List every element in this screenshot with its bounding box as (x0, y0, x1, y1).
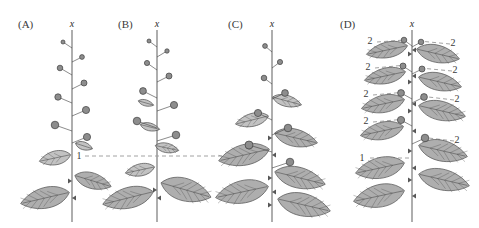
axillary-bud (133, 117, 141, 125)
annotation-label: 2 (453, 64, 458, 75)
botanical-figure: (A)x1(B)x(C)x(D)x222222221 (0, 0, 479, 228)
annotation-label: 1 (360, 152, 365, 163)
axillary-bud (83, 133, 90, 140)
axillary-bud (282, 90, 289, 97)
axillary-bud (51, 121, 59, 129)
axillary-bud (172, 131, 180, 139)
annotation-label: 2 (368, 35, 373, 46)
axillary-bud (144, 60, 149, 65)
panel-label-a: (A) (18, 18, 34, 31)
annotation-label: 2 (451, 37, 456, 48)
axillary-bud (401, 37, 407, 43)
axillary-bud (57, 65, 63, 71)
axillary-bud (277, 59, 282, 64)
axis-label-b: x (154, 18, 160, 29)
axillary-bud (398, 90, 405, 97)
axillary-bud (55, 94, 61, 100)
axillary-bud (418, 39, 424, 45)
axis-label-c: x (269, 18, 275, 29)
annotation-label: 2 (455, 93, 460, 104)
axillary-bud (147, 39, 151, 43)
panel-label-d: (D) (340, 18, 356, 31)
axillary-bud (82, 106, 89, 113)
annotation-label: 2 (364, 88, 369, 99)
axillary-bud (397, 116, 404, 123)
axillary-bud (61, 40, 65, 44)
axillary-bud (284, 124, 292, 132)
axillary-bud (254, 109, 261, 116)
annotation-label: 2 (364, 115, 369, 126)
panel-label-b: (B) (118, 18, 133, 31)
figure-canvas: (A)x1(B)x(C)x(D)x222222221 (0, 0, 479, 228)
axillary-bud (263, 44, 268, 49)
panel-label-c: (C) (228, 18, 243, 31)
axis-label-d: x (409, 18, 415, 29)
axillary-bud (421, 94, 428, 101)
axillary-bud (421, 134, 429, 142)
axillary-bud (170, 101, 177, 108)
axillary-bud (286, 158, 294, 166)
annotation-label: 1 (77, 150, 82, 161)
axillary-bud (166, 73, 172, 79)
axillary-bud (245, 141, 253, 149)
axillary-bud (165, 49, 169, 53)
axillary-bud (419, 66, 425, 72)
annotation-label: 2 (455, 134, 460, 145)
axillary-bud (80, 55, 85, 60)
axillary-bud (140, 88, 147, 95)
axis-label-a: x (69, 18, 75, 29)
axillary-bud (261, 75, 267, 81)
annotation-label: 2 (366, 61, 371, 72)
axillary-bud (400, 63, 406, 69)
axillary-bud (81, 80, 87, 86)
